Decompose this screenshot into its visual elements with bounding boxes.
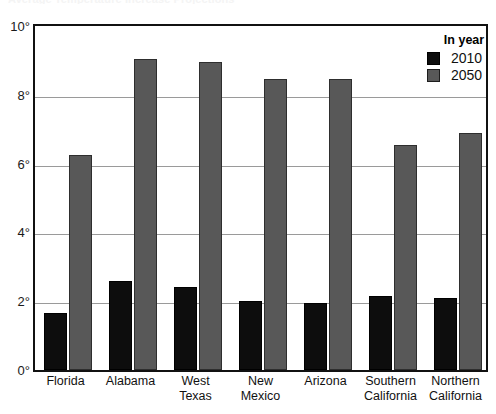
legend-swatch-2010-icon — [427, 52, 440, 65]
legend-swatch-2050-icon — [427, 69, 440, 82]
x-axis-label-line: Southern — [358, 374, 423, 389]
bar-2010-florida — [44, 313, 67, 370]
x-axis-label-line: West — [163, 374, 228, 389]
x-axis-label-line: Northern — [423, 374, 488, 389]
x-axis-label-new-mexico: NewMexico — [228, 374, 293, 404]
bar-2050-west-texas — [199, 62, 222, 370]
bar-2010-alabama — [109, 281, 132, 370]
bar-2050-arizona — [329, 79, 352, 370]
chart-title: Average Temperature Increase Projections — [8, 0, 428, 4]
x-axis-label-line: Florida — [33, 374, 98, 389]
x-axis-label-line: California — [423, 389, 488, 404]
plot-area: In year 2010 2050 — [33, 24, 488, 372]
bar-2010-new-mexico — [239, 301, 262, 370]
temperature-increase-bar-chart: Average Temperature Increase Projections… — [0, 0, 496, 414]
x-axis-label-line: New — [228, 374, 293, 389]
chart-legend: In year 2010 2050 — [416, 31, 496, 89]
legend-item-2010: 2010 — [416, 51, 496, 65]
bar-2050-new-mexico — [264, 79, 287, 370]
y-axis-tick-label: 4° — [0, 226, 30, 239]
legend-label-2010: 2010 — [451, 51, 482, 65]
y-axis-tick-label: 8° — [0, 89, 30, 102]
legend-label-2050: 2050 — [451, 68, 482, 82]
x-axis-label-southern-california: SouthernCalifornia — [358, 374, 423, 404]
x-axis-label-northern-california: NorthernCalifornia — [423, 374, 488, 404]
x-axis-label-line: Texas — [163, 389, 228, 404]
bar-2050-florida — [69, 155, 92, 370]
x-axis-label-line: Alabama — [98, 374, 163, 389]
x-axis-label-line: California — [358, 389, 423, 404]
bar-2010-west-texas — [174, 287, 197, 370]
y-axis-tick-label: 0° — [0, 364, 30, 377]
legend-title: In year — [416, 33, 496, 47]
bar-2010-northern-california — [434, 298, 457, 370]
bar-2010-southern-california — [369, 296, 392, 370]
x-axis-label-arizona: Arizona — [293, 374, 358, 389]
y-axis-tick-label: 10° — [0, 20, 30, 33]
bar-2050-alabama — [134, 59, 157, 370]
x-axis-label-line: Arizona — [293, 374, 358, 389]
bar-2050-northern-california — [459, 133, 482, 370]
y-axis-tick-label: 6° — [0, 158, 30, 171]
x-axis-label-florida: Florida — [33, 374, 98, 389]
bar-2050-southern-california — [394, 145, 417, 370]
y-axis-tick-label: 2° — [0, 295, 30, 308]
x-axis-label-west-texas: WestTexas — [163, 374, 228, 404]
x-axis-label-alabama: Alabama — [98, 374, 163, 389]
bar-2010-arizona — [304, 303, 327, 370]
x-axis-category-labels: FloridaAlabamaWestTexasNewMexicoArizonaS… — [33, 374, 488, 414]
x-axis-label-line: Mexico — [228, 389, 293, 404]
legend-item-2050: 2050 — [416, 68, 496, 82]
